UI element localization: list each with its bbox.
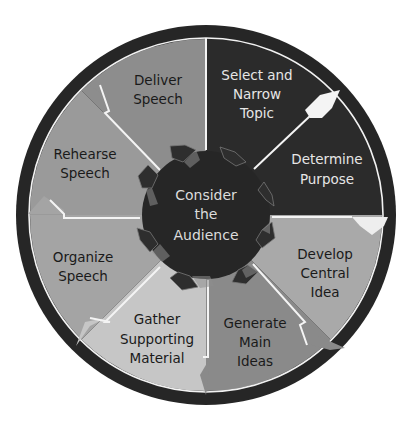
label-generate-main-ideas-2: Main: [239, 334, 271, 350]
label-deliver-speech-1: Deliver: [134, 72, 182, 88]
center-label-line-2: the: [195, 206, 218, 222]
label-organize-speech-2: Speech: [58, 268, 108, 284]
label-organize-speech-1: Organize: [53, 249, 113, 265]
label-determine-purpose-2: Purpose: [300, 171, 354, 187]
label-gather-supporting-material-1: Gather: [134, 311, 181, 327]
label-determine-purpose-1: Determine: [291, 151, 362, 167]
label-select-topic-1: Select and: [221, 67, 292, 83]
label-deliver-speech-2: Speech: [133, 91, 183, 107]
center-label-line-1: Consider: [175, 187, 237, 203]
label-develop-central-idea-2: Central: [300, 265, 349, 281]
label-develop-central-idea-3: Idea: [310, 284, 339, 300]
speechmaking-cycle-diagram: Consider the Audience Select and Narrow …: [0, 0, 412, 432]
label-rehearse-speech-2: Speech: [60, 165, 110, 181]
label-gather-supporting-material-2: Supporting: [120, 331, 194, 347]
label-generate-main-ideas-1: Generate: [223, 315, 286, 331]
label-select-topic-2: Narrow: [233, 86, 281, 102]
label-develop-central-idea-1: Develop: [297, 246, 353, 262]
label-gather-supporting-material-3: Material: [130, 350, 185, 366]
label-generate-main-ideas-3: Ideas: [237, 353, 273, 369]
label-rehearse-speech-1: Rehearse: [53, 146, 116, 162]
center-label-line-3: Audience: [173, 227, 238, 243]
label-select-topic-3: Topic: [239, 105, 274, 121]
